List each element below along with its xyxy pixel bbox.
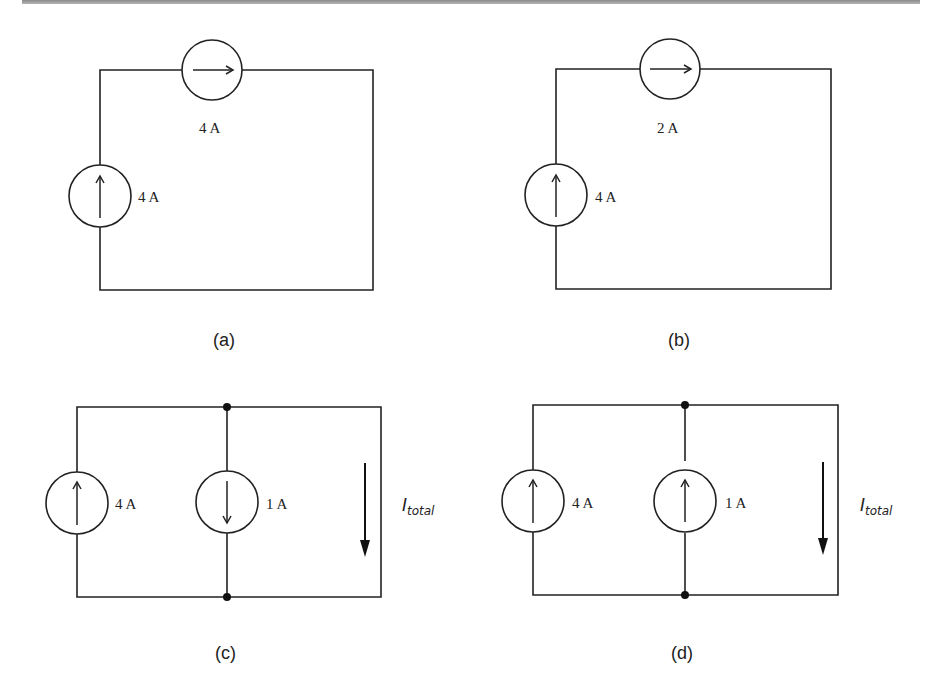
circuit-a-caption: (a) xyxy=(213,330,235,350)
circuit-a-wire xyxy=(100,70,373,290)
circuit-c-left-source-label: 4 A xyxy=(115,496,136,512)
circuit-d: 4 A 1 A Itotal (d) xyxy=(502,401,893,663)
circuit-b-caption: (b) xyxy=(668,330,690,350)
circuit-d-current-label: Itotal xyxy=(860,495,893,518)
circuit-d-middle-source-label: 1 A xyxy=(725,495,746,511)
circuit-d-left-source xyxy=(502,470,564,532)
junction-dot-icon xyxy=(681,401,689,409)
circuit-b-left-source-label: 4 A xyxy=(595,189,616,205)
circuit-a-left-source xyxy=(69,165,131,227)
circuit-b-top-source xyxy=(640,39,700,99)
circuit-a-left-source-label: 4 A xyxy=(138,189,159,205)
circuit-c: 4 A 1 A Itotal (c) xyxy=(46,403,435,663)
circuit-a-top-source xyxy=(182,40,242,100)
junction-dot-icon xyxy=(223,593,231,601)
circuit-d-middle-source xyxy=(654,470,716,532)
circuit-b: 2 A 4 A (b) xyxy=(525,39,831,350)
circuit-a: 4 A 4 A (a) xyxy=(69,40,373,350)
circuit-d-left-source-label: 4 A xyxy=(572,495,593,511)
circuit-c-left-source xyxy=(46,472,108,534)
arrow-down-icon xyxy=(818,538,828,555)
arrow-down-icon xyxy=(360,540,370,557)
junction-dot-icon xyxy=(681,591,689,599)
circuit-c-caption: (c) xyxy=(215,643,236,663)
circuit-d-caption: (d) xyxy=(671,643,693,663)
circuit-a-top-source-label: 4 A xyxy=(199,120,220,136)
circuit-b-left-source xyxy=(525,164,587,226)
circuit-c-current-label: Itotal xyxy=(402,495,435,518)
junction-dot-icon xyxy=(223,403,231,411)
circuit-c-middle-source-label: 1 A xyxy=(266,496,287,512)
circuit-b-top-source-label: 2 A xyxy=(657,120,678,136)
circuit-c-middle-source xyxy=(196,471,258,533)
circuit-b-wire xyxy=(556,69,831,289)
